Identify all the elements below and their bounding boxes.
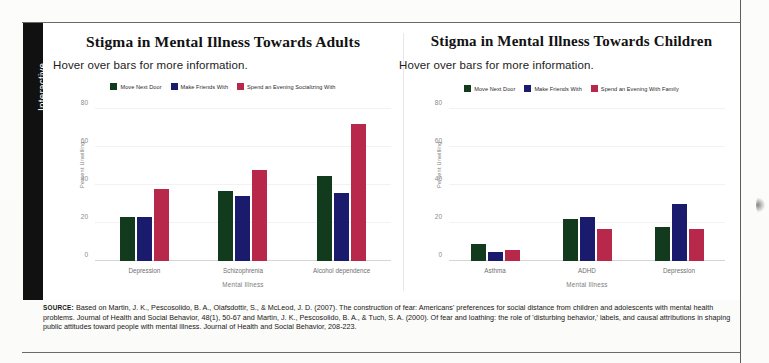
bar-group: Alcohol dependence (317, 109, 366, 261)
bar-group: Asthma (471, 109, 520, 261)
y-axis-tick-label: 40 (435, 175, 442, 182)
x-axis-tick-label: ADHD (578, 267, 596, 274)
bar-group: ADHD (563, 109, 612, 261)
legend-swatch-icon (464, 85, 471, 92)
y-axis-tick-label: 0 (438, 251, 442, 258)
x-axis-tick-label: Depression (128, 267, 160, 274)
x-axis-tick-label: Asthma (484, 267, 505, 274)
y-axis-tick-label: 0 (84, 251, 88, 258)
legend-item[interactable]: Move Next Door (110, 83, 161, 90)
chart-panel-adults: Stigma in Mental Illness Towards Adults … (43, 23, 403, 300)
y-axis-tick-label: 20 (81, 213, 88, 220)
bar[interactable] (218, 191, 233, 261)
legend-label: Move Next Door (474, 86, 515, 92)
legend-item[interactable]: Make Friends With (171, 83, 228, 90)
legend-label: Spend an Evening With Family (601, 86, 679, 92)
chart-subtitle-adults: Hover over bars for more information. (53, 59, 248, 71)
chart-panel-children: Stigma in Mental Illness Towards Childre… (403, 23, 740, 300)
legend-swatch-icon (110, 83, 117, 90)
plot-area-children: Percent Unwilling Mental Illness 0204060… (449, 109, 725, 261)
bar[interactable] (351, 124, 366, 261)
chart-subtitle-children: Hover over bars for more information. (399, 59, 594, 71)
legend-swatch-icon (237, 83, 244, 90)
legend-label: Make Friends With (534, 86, 581, 92)
bar[interactable] (672, 204, 687, 261)
source-note: SOURCE: Based on Martin, J. K., Pescosol… (43, 303, 742, 332)
bar-groups: AsthmaADHDDepression (449, 109, 725, 261)
bar-group: Depression (120, 109, 169, 261)
bar[interactable] (120, 217, 135, 261)
bar[interactable] (334, 193, 349, 261)
x-axis-tick-label: Alcohol dependence (313, 267, 370, 274)
legend-label: Make Friends With (181, 84, 228, 90)
source-text: Based on Martin, J. K., Pescosolido, B. … (43, 303, 730, 331)
legend-swatch-icon (171, 83, 178, 90)
legend-item[interactable]: Spend an Evening Socializing With (237, 83, 335, 90)
plot-area-adults: Percent Unwilling Mental Illness 0204060… (95, 109, 391, 261)
x-axis-label-children: Mental Illness (449, 281, 725, 288)
chart-legend-adults: Move Next DoorMake Friends WithSpend an … (43, 83, 403, 90)
bar[interactable] (235, 196, 250, 261)
legend-label: Move Next Door (120, 84, 161, 90)
legend-item[interactable]: Spend an Evening With Family (591, 85, 679, 92)
y-axis-tick-label: 80 (435, 99, 442, 106)
bar[interactable] (580, 217, 595, 261)
bar[interactable] (471, 244, 486, 261)
bar[interactable] (317, 176, 332, 262)
page-frame: Interactive Stigma in Mental Illness Tow… (0, 0, 769, 363)
x-axis-tick-label: Depression (663, 267, 695, 274)
legend-label: Spend an Evening Socializing With (247, 84, 335, 90)
chart-legend-children: Move Next DoorMake Friends WithSpend an … (403, 85, 740, 92)
bar[interactable] (655, 227, 670, 261)
y-axis-tick-label: 60 (81, 137, 88, 144)
bar[interactable] (154, 189, 169, 261)
page-edge-mark (756, 195, 765, 215)
interactive-tab[interactable]: Interactive (23, 23, 43, 300)
source-label: SOURCE: (43, 304, 74, 311)
bar[interactable] (137, 217, 152, 261)
bar[interactable] (563, 219, 578, 261)
bar-group: Depression (655, 109, 704, 261)
y-axis-tick-label: 60 (435, 137, 442, 144)
bar[interactable] (252, 170, 267, 261)
y-axis-tick-label: 40 (81, 175, 88, 182)
bar[interactable] (689, 229, 704, 261)
bar[interactable] (505, 250, 520, 261)
x-axis-label-adults: Mental Illness (95, 281, 391, 288)
y-axis-tick-label: 20 (435, 213, 442, 220)
chart-title-children: Stigma in Mental Illness Towards Childre… (403, 33, 740, 50)
x-axis-tick-label: Schizophrenia (223, 267, 263, 274)
charts-container: Stigma in Mental Illness Towards Adults … (43, 23, 740, 300)
chart-title-adults: Stigma in Mental Illness Towards Adults (43, 33, 403, 51)
legend-item[interactable]: Move Next Door (464, 85, 515, 92)
bar[interactable] (488, 252, 503, 262)
bar-group: Schizophrenia (218, 109, 267, 261)
bar[interactable] (597, 229, 612, 261)
bar-groups: DepressionSchizophreniaAlcohol dependenc… (95, 109, 391, 261)
legend-swatch-icon (591, 85, 598, 92)
y-axis-tick-label: 80 (81, 99, 88, 106)
legend-swatch-icon (524, 85, 531, 92)
bottom-divider-rule (22, 352, 740, 353)
legend-item[interactable]: Make Friends With (524, 85, 581, 92)
